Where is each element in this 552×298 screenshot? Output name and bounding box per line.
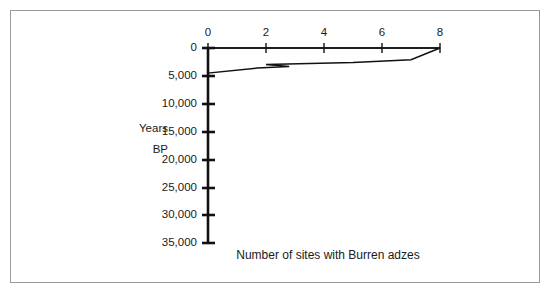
chart-caption: Number of sites with Burren adzes (198, 248, 458, 262)
y-tick-label-0: 0 (117, 42, 197, 54)
y-tick-label-10000: 10,000 (117, 98, 197, 110)
x-tick-label-6: 6 (379, 27, 385, 39)
y-tick-label-5000: 5,000 (117, 70, 197, 82)
y-axis-title: Years BP (88, 118, 168, 160)
y-axis-title-line1: Years (139, 122, 168, 134)
x-tick-label-4: 4 (321, 27, 327, 39)
x-tick-label-8: 8 (437, 27, 443, 39)
y-tick-label-35000: 35,000 (117, 237, 197, 249)
y-tick-label-30000: 30,000 (117, 209, 197, 221)
x-tick-label-0: 0 (205, 27, 211, 39)
y-axis-title-line2: BP (88, 139, 168, 160)
y-tick-label-25000: 25,000 (117, 182, 197, 194)
x-tick-label-2: 2 (263, 27, 269, 39)
